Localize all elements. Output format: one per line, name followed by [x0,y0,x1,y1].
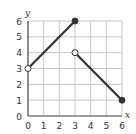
closed-endpoint [72,18,78,24]
y-tick-label: 5 [16,32,22,42]
x-tick-label: 0 [25,121,31,131]
grid [28,21,122,116]
segment-2-line [75,53,122,100]
y-tick-label: 4 [16,48,22,58]
x-tick-label: 5 [103,121,109,131]
open-endpoint [25,66,31,72]
y-tick-label: 6 [16,17,22,27]
x-tick-labels: 0123456 [25,121,125,131]
y-tick-label: 0 [16,112,22,122]
closed-endpoint [119,97,125,103]
y-axis-label: y [24,8,31,18]
y-tick-label: 3 [16,64,22,74]
x-tick-label: 2 [56,121,62,131]
y-tick-labels: 0123456 [16,17,22,122]
x-tick-label: 3 [72,121,78,131]
x-tick-label: 4 [88,121,94,131]
x-tick-label: 1 [41,121,47,131]
y-tick-label: 2 [16,80,22,90]
x-axis-label: x [125,110,130,120]
piecewise-function-chart: 0123456 0123456 x y [0,0,136,134]
open-endpoint [72,50,78,56]
x-tick-label: 6 [119,121,125,131]
y-tick-label: 1 [16,96,22,106]
segment-1-line [28,21,75,69]
